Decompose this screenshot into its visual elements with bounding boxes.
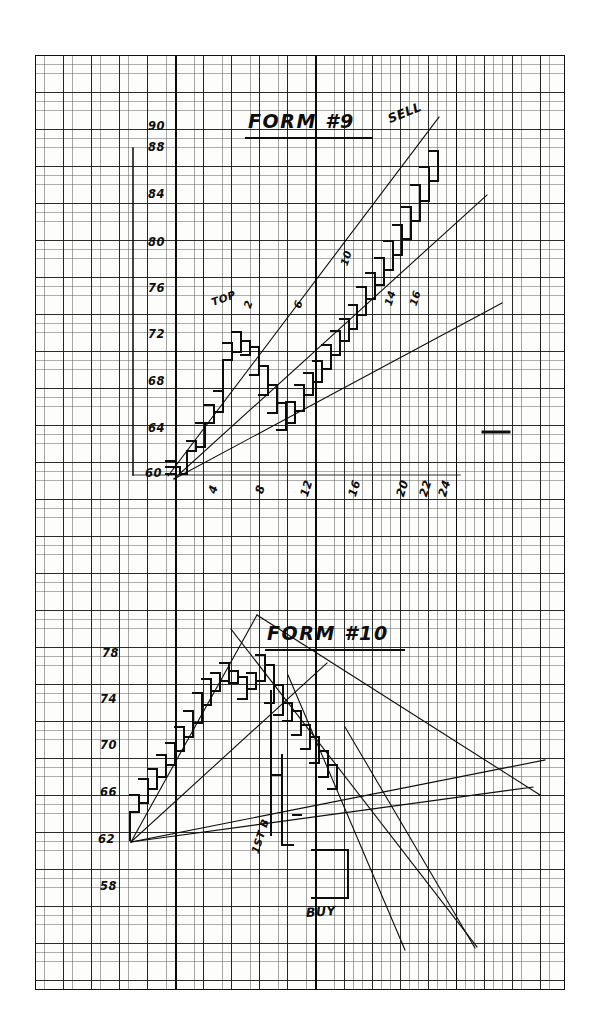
form-10-down-line-4 (345, 727, 475, 948)
form-10-fan-line-1 (131, 615, 257, 842)
form-10-ink-layer (35, 55, 565, 990)
form-10-down-line-1 (257, 615, 540, 795)
form-10-price-step-low (312, 850, 348, 898)
graph-paper-sheet: FORM #9 90 88 84 80 76 72 68 64 60 4 8 1… (35, 55, 565, 990)
form-10-down-line-3 (288, 675, 405, 950)
form-10-price-step (130, 655, 337, 845)
form-10-fan-line-4 (131, 787, 533, 842)
